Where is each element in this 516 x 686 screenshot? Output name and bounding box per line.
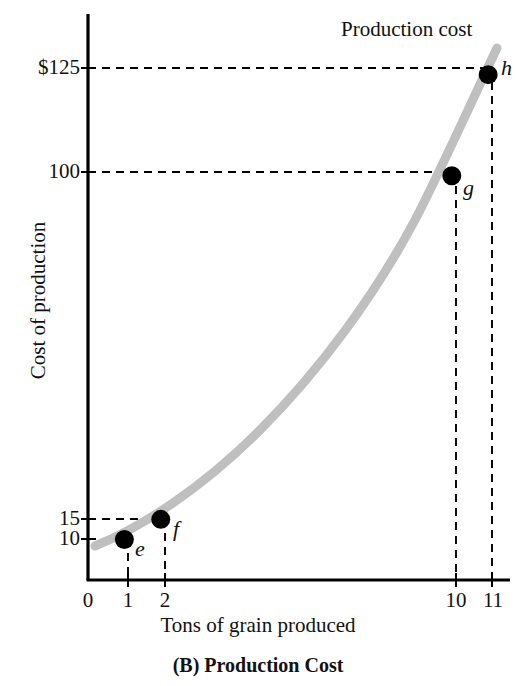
x-tick-label-11: 11 bbox=[477, 590, 509, 611]
x-tick-label-1: 1 bbox=[114, 590, 142, 611]
curve-annotation-label: Production cost bbox=[341, 19, 472, 40]
point-label-h: h bbox=[501, 57, 512, 79]
data-point-h bbox=[479, 65, 498, 84]
point-label-g: g bbox=[463, 177, 474, 199]
x-tick-label-10: 10 bbox=[437, 590, 475, 611]
x-tick-label-0: 0 bbox=[74, 590, 102, 611]
point-label-e: e bbox=[135, 538, 145, 560]
y-axis-title: Cost of production bbox=[28, 171, 49, 431]
x-axis-title: Tons of grain produced bbox=[0, 615, 516, 636]
data-point-f bbox=[151, 510, 170, 529]
x-tick-label-2: 2 bbox=[151, 590, 179, 611]
y-tick-label-125: $125 bbox=[18, 57, 80, 78]
data-point-g bbox=[442, 166, 461, 185]
production-cost-figure: $125 100 15 10 0 1 2 10 11 e f g h Produ… bbox=[0, 0, 516, 686]
y-tick-label-10: 10 bbox=[18, 528, 80, 549]
point-label-f: f bbox=[173, 518, 179, 540]
production-cost-curve bbox=[95, 48, 497, 546]
figure-caption: (B) Production Cost bbox=[0, 655, 516, 675]
production-cost-chart bbox=[0, 0, 516, 686]
data-point-e bbox=[115, 530, 134, 549]
